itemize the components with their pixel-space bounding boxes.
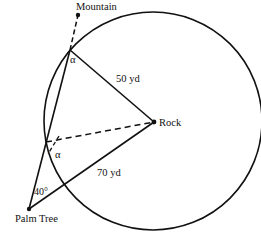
mountain-point [76,13,80,17]
distance-50-label: 50 yd [116,73,140,84]
diagram-canvas: Mountain Rock Palm Tree 50 yd 70 yd 40° … [0,0,261,236]
palm-tree-label: Palm Tree [15,213,58,224]
palm-tree-point [27,207,31,211]
dashed-lower-to-rock [46,122,154,142]
rock-point [152,120,157,125]
rock-label: Rock [159,117,182,128]
distance-70-label: 70 yd [97,167,121,178]
mountain-label: Mountain [76,1,118,12]
angle-40-label: 40° [34,186,48,197]
line-top-to-rock [70,50,154,122]
alpha-top-label: α [70,54,76,65]
alpha-bottom-label: α [55,149,61,160]
